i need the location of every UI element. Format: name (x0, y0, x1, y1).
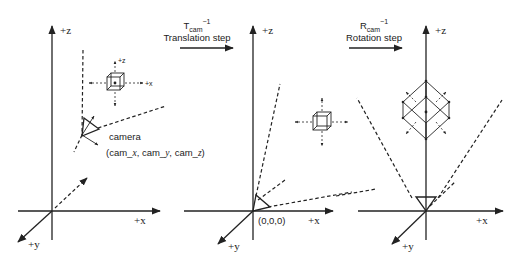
previous-frustum-edge (336, 189, 376, 196)
frustum-edge-mid (258, 180, 285, 200)
y-axis-label: +y (402, 240, 414, 252)
panel-world: +z +x +y camera (cam_x, cam_y, cam_z) (18, 24, 205, 250)
x-axis-label: +x (476, 214, 488, 226)
frustum-edge-left (357, 98, 412, 198)
y-axis-label: +y (228, 240, 240, 252)
translation-step: Tcam−1 Translation step (163, 18, 233, 48)
z-axis-label: +z (60, 24, 71, 36)
cube-z-label: +z (118, 57, 126, 64)
rotation-step-label: Rotation step (346, 32, 402, 43)
translation-step-label: Translation step (163, 32, 230, 43)
x-axis-label: +x (308, 214, 320, 226)
frustum-edge-right (268, 192, 352, 207)
y-axis-label: +y (28, 238, 40, 250)
camera-coords-label: (cam_x, cam_y, cam_z) (106, 147, 205, 158)
frustum-edge-back (74, 135, 82, 152)
frustum-edge-right (98, 106, 166, 128)
camera-dir-arrow (82, 135, 98, 145)
rotation-step: Rcam−1 Rotation step (346, 18, 402, 48)
camera-position-vector (55, 178, 87, 208)
cube-x-label: +x (145, 80, 153, 87)
translation-matrix-label: Tcam−1 (183, 18, 210, 33)
frustum-edge-right (438, 100, 502, 198)
x-axis-label: +x (134, 214, 146, 226)
frustum-edge-up (82, 50, 83, 135)
panel-rotated: +z +x +y (336, 24, 503, 252)
camera-label: camera (109, 131, 141, 142)
object-cube (295, 98, 348, 146)
camera-frustum: camera (cam_x, cam_y, cam_z) (74, 50, 205, 158)
camera-icon (253, 195, 270, 211)
origin-label: (0,0,0) (258, 215, 285, 226)
frustum-edge-mid (430, 181, 456, 206)
frustum-edge-up (256, 84, 280, 196)
object-cube: +z +x (89, 57, 153, 106)
rotation-matrix-label: Rcam−1 (360, 18, 388, 33)
camera-transform-diagram: +z +x +y camera (cam_x, cam_y, cam_z) (0, 0, 520, 264)
z-axis-label: +z (435, 24, 446, 36)
panel-translated: +z +x +y (0,0,0) (184, 24, 352, 252)
z-axis-label: +z (262, 24, 273, 36)
